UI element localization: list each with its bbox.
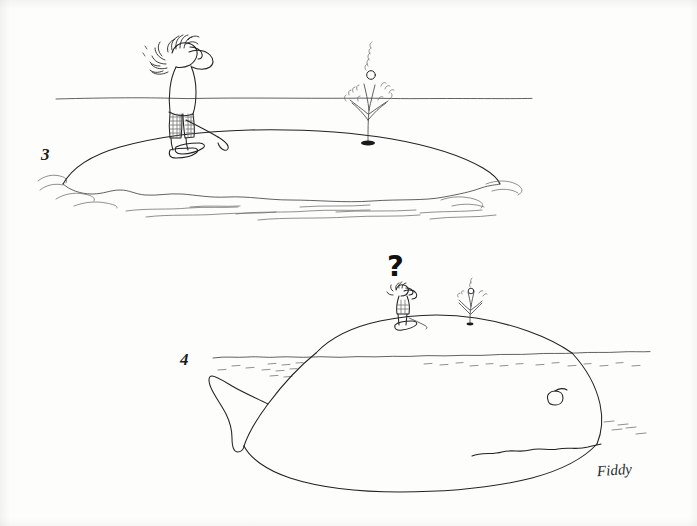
ripple-center-6 xyxy=(300,205,370,207)
ripple-right-1 xyxy=(441,197,483,208)
golfer-small-trouser-hatching xyxy=(397,300,409,314)
golfer-torso xyxy=(169,67,176,112)
golfer-small-legs xyxy=(398,314,407,325)
ripple-right-6 xyxy=(430,215,496,219)
panel-number-4: 4 xyxy=(180,350,189,370)
whale-eye xyxy=(547,391,563,405)
golfer-shoe-left xyxy=(169,148,197,158)
ripple-right-3 xyxy=(486,181,522,195)
spout-trail xyxy=(365,42,372,70)
ripple-left-1 xyxy=(38,175,67,183)
question-mark: ? xyxy=(387,252,404,281)
blowhole xyxy=(361,140,375,145)
ripple-left-4 xyxy=(74,202,117,208)
ripple-center-1 xyxy=(126,207,238,211)
cartoon-page: 3 4 ? Fiddy xyxy=(0,0,697,526)
whale-back xyxy=(316,315,572,353)
horizon-line xyxy=(56,98,532,99)
whale-body xyxy=(244,353,316,446)
whale-belly xyxy=(244,444,597,492)
golfer-arm-shading-eyes xyxy=(189,50,213,69)
golfer-motion-tick-2 xyxy=(143,53,145,56)
golfer-motion-tick-1 xyxy=(145,46,147,49)
ripple-right-5 xyxy=(420,210,482,213)
blowhole-small xyxy=(467,323,474,326)
panel-number-3: 3 xyxy=(41,145,50,165)
ripple-left-2 xyxy=(40,184,63,190)
whale-mouth xyxy=(472,444,601,456)
golfer-leg-left xyxy=(171,138,173,150)
waterline xyxy=(213,352,650,358)
golf-ball xyxy=(367,71,376,80)
panel-3 xyxy=(38,35,532,220)
whale-tail xyxy=(209,376,268,452)
water-texture xyxy=(218,363,646,434)
golf-club-head xyxy=(218,137,228,150)
spout-small-trail xyxy=(470,278,472,287)
ripple-right-2 xyxy=(452,204,484,207)
golfer-shirt-hem xyxy=(169,112,193,116)
ripple-center-3 xyxy=(190,206,240,207)
golf-ball-small xyxy=(468,288,474,294)
water-spout xyxy=(345,42,395,141)
island-outline xyxy=(63,130,500,184)
ripple-right-4 xyxy=(492,189,518,193)
whale-head-right xyxy=(572,353,602,444)
island-shoreline xyxy=(63,184,500,202)
water-spout-small xyxy=(458,278,487,325)
golfer-trousers xyxy=(169,113,194,138)
golfer-small xyxy=(387,282,427,330)
ripple-center-5 xyxy=(258,215,420,220)
artist-signature: Fiddy xyxy=(596,461,632,480)
golfer-back xyxy=(191,66,196,114)
ripple-left-3 xyxy=(56,193,95,201)
cartoon-artwork xyxy=(0,0,697,526)
panel-4 xyxy=(209,278,650,492)
